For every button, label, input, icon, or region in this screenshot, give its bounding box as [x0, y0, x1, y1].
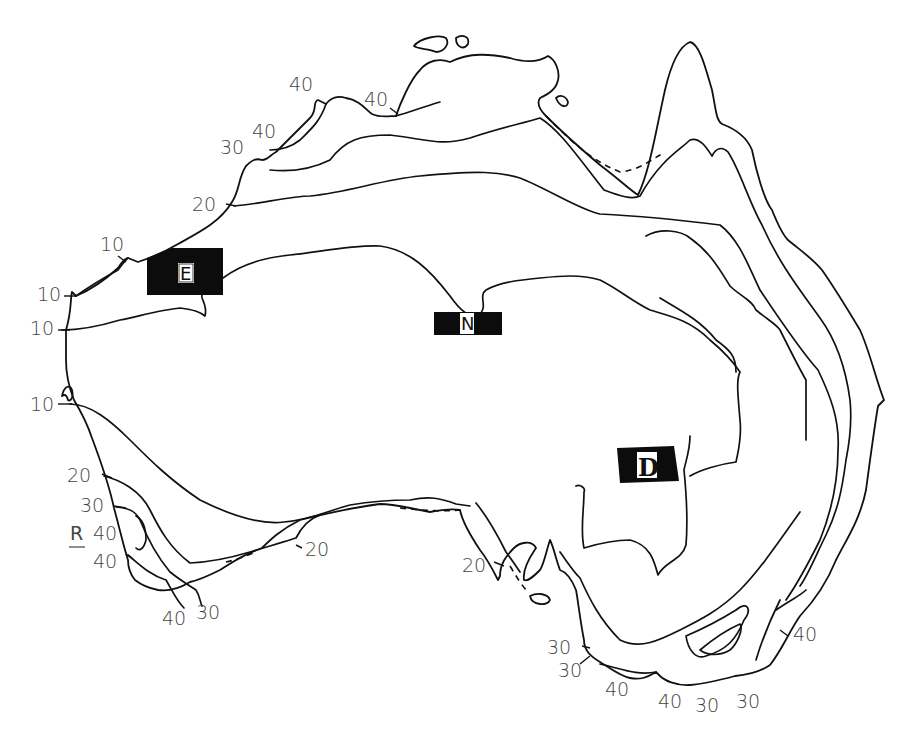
melville-island: [414, 36, 447, 52]
isoline-40-north: [270, 102, 440, 150]
contour-label: 20: [305, 538, 329, 560]
region-box-d: D: [617, 446, 679, 483]
svg-text:R: R: [70, 522, 83, 544]
contour-label: 20: [462, 554, 486, 576]
contour-label: 20: [67, 464, 91, 486]
isoline-30-southeast: [600, 606, 748, 673]
svg-text:D: D: [638, 453, 659, 482]
contour-label: 30: [558, 659, 582, 681]
contour-label: 30: [547, 636, 571, 658]
svg-text:E: E: [180, 263, 191, 284]
contour-label: 40: [252, 120, 276, 142]
region-box-n: N: [434, 312, 502, 335]
contour-label: 40: [793, 623, 817, 645]
kangaroo-island: [530, 594, 550, 604]
contour-label: 40: [605, 678, 629, 700]
contour-label-ticks: [58, 108, 788, 664]
contour-label: 40: [93, 550, 117, 572]
contour-label: 40: [658, 690, 682, 712]
contour-label: 30: [695, 694, 719, 716]
contour-label: 40: [93, 522, 117, 544]
isoline-10-central: [223, 246, 741, 476]
contour-label: 30: [80, 494, 104, 516]
contour-label: 30: [196, 601, 220, 623]
isoline-40-southeast: [700, 590, 806, 660]
point-label-r: R: [69, 522, 85, 547]
coastline-mainland: [66, 42, 884, 685]
isoline-40-southwest: [128, 516, 184, 608]
isoline-20-north: [234, 172, 838, 600]
region-box-e: E: [147, 248, 223, 295]
contour-label: 10: [30, 317, 54, 339]
svg-text:N: N: [461, 313, 474, 334]
bathurst-island: [456, 36, 468, 47]
contour-label: 10: [30, 393, 54, 415]
contour-label: 20: [192, 193, 216, 215]
isoline-20-southwest: [104, 476, 320, 563]
dashed-isoline-gulf: [546, 116, 662, 172]
contour-label: 30: [220, 136, 244, 158]
contour-label: 30: [736, 690, 760, 712]
contour-label: 10: [37, 283, 61, 305]
contour-label: 40: [364, 88, 388, 110]
contour-label: 10: [100, 233, 124, 255]
contour-label: 40: [289, 73, 313, 95]
groote-island: [556, 96, 568, 106]
contour-label: 40: [162, 607, 186, 629]
australia-isoline-map: 40 40 40 30 20 10 10 10 10 20 30 40 40 4…: [0, 0, 914, 740]
isoline-10-southwest: [70, 404, 470, 523]
